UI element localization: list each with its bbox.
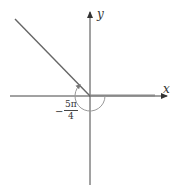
angle-numerator: 5π — [64, 100, 78, 111]
terminal-side — [15, 19, 90, 96]
diagram-canvas — [0, 0, 178, 185]
angle-denominator: 4 — [64, 111, 78, 121]
y-axis-label: y — [97, 8, 104, 20]
angle-diagram: y x − 5π 4 — [0, 0, 178, 185]
angle-sign: − — [55, 106, 63, 117]
x-axis-label: x — [163, 83, 170, 95]
angle-label: 5π 4 — [64, 100, 78, 121]
